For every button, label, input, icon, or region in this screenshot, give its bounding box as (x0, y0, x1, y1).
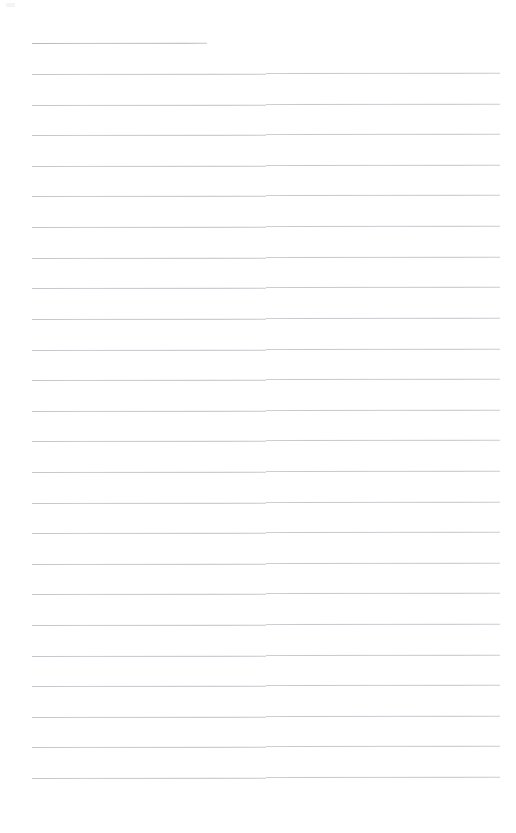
document-page (0, 0, 516, 833)
document-content-area (32, 36, 500, 786)
paper-speck (6, 3, 15, 7)
